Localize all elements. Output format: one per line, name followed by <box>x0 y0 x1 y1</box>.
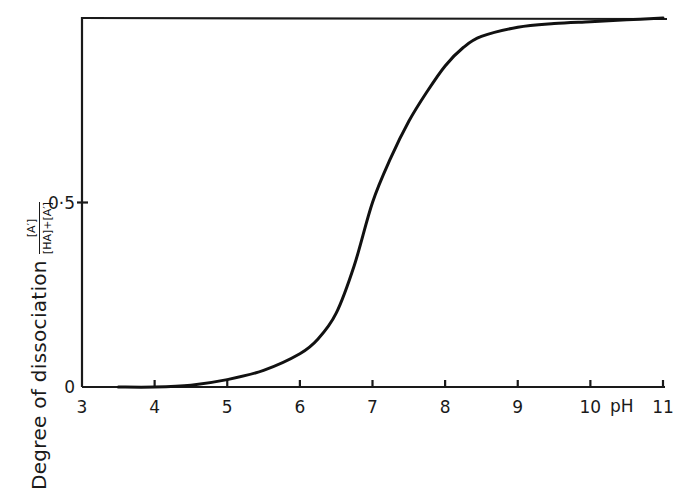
fraction-numerator: [A′] <box>25 217 39 240</box>
y-axis-label: Degree of dissociation [A′] [HA]+[A′] <box>14 135 64 490</box>
x-axis-unit-label: pH <box>610 396 634 416</box>
y-axis-label-fraction: [A′] [HA]+[A′] <box>25 202 54 254</box>
x-tick-label: 5 <box>222 397 233 417</box>
upper-reference-line <box>82 18 667 19</box>
x-tick-label: 7 <box>367 397 378 417</box>
y-axis-label-text: Degree of dissociation <box>27 260 51 490</box>
x-tick-label: 4 <box>149 397 160 417</box>
fraction-denominator: [HA]+[A′] <box>40 202 54 254</box>
y-tick-label: 0 <box>64 377 75 397</box>
dissociation-curve <box>118 18 663 387</box>
x-tick-label: 10 <box>580 397 602 417</box>
x-tick-label: 6 <box>294 397 305 417</box>
x-tick-label: 11 <box>652 397 674 417</box>
x-tick-label: 3 <box>77 397 88 417</box>
plot-frame <box>82 17 667 387</box>
x-tick-label: 9 <box>512 397 523 417</box>
x-tick-label: 8 <box>440 397 451 417</box>
